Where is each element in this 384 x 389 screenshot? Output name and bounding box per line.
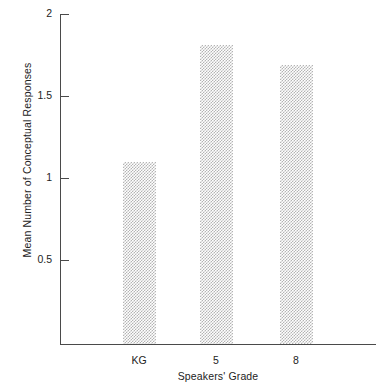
y-tick-label-0-5: 0.5 bbox=[37, 253, 52, 266]
y-tick-0-5: 0.5 bbox=[61, 260, 69, 261]
bar-chart-figure: Mean Number of Conceptual Responses 2 1.… bbox=[0, 0, 384, 389]
y-tick-1: 1 bbox=[61, 178, 69, 179]
y-tick-label-1: 1 bbox=[46, 171, 52, 184]
plot-area: 2 1.5 1 0.5 KG 5 8 bbox=[60, 14, 376, 345]
y-tick-2: 2 bbox=[61, 14, 69, 15]
y-axis-line bbox=[60, 14, 61, 345]
y-tick-label-1-5: 1.5 bbox=[37, 89, 52, 102]
x-axis-line bbox=[60, 344, 376, 345]
x-tick-label-kg: KG bbox=[104, 354, 174, 367]
x-axis-title: Speakers' Grade bbox=[60, 369, 376, 383]
x-tick-label-grade-8: 8 bbox=[261, 354, 331, 367]
bar-kg bbox=[123, 162, 156, 344]
y-axis-title: Mean Number of Conceptual Responses bbox=[20, 10, 34, 310]
bar-grade-5 bbox=[200, 45, 233, 344]
y-tick-1-5: 1.5 bbox=[61, 96, 69, 97]
bar-grade-8 bbox=[280, 65, 313, 344]
y-tick-label-2: 2 bbox=[46, 7, 52, 20]
x-tick-label-grade-5: 5 bbox=[181, 354, 251, 367]
